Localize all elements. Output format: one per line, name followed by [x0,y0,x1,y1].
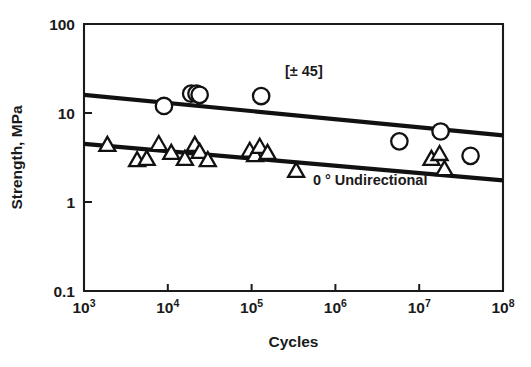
y-tick-label: 10 [58,105,75,122]
x-tick-label: 106 [324,297,347,316]
y-tick-label: 1 [66,194,75,211]
x-tick-exponent: 5 [257,297,263,309]
x-tick-exponent: 6 [341,297,347,309]
x-tick-exponent: 7 [425,297,431,309]
data-point-triangle [288,163,304,177]
data-point-circle [156,98,172,114]
y-axis-ticks [84,113,92,202]
data-point-triangle [151,136,167,150]
x-tick-exponent: 8 [509,297,515,309]
x-axis-tick-labels: 103104105106107108 [72,297,514,316]
data-point-circle [391,133,407,149]
fatigue-strength-scatter-chart: 103104105106107108 1001010.1 [± 45]0 ° U… [0,0,531,367]
x-axis-title: Cycles [269,333,319,350]
series-annotation: [± 45] [285,63,323,79]
data-point-circle [253,88,269,104]
figure-container: 103104105106107108 1001010.1 [± 45]0 ° U… [0,0,531,367]
x-tick-label: 108 [491,297,514,316]
y-axis-title: Strength, MPa [8,105,25,210]
x-tick-label: 105 [240,297,263,316]
x-tick-label: 103 [72,297,95,316]
data-point-circle [191,87,207,103]
data-point-circle [432,123,448,139]
y-tick-label: 100 [49,16,75,33]
x-tick-label: 107 [408,297,431,316]
y-tick-label: 0.1 [53,283,75,300]
data-point-circle [462,148,478,164]
x-tick-label: 104 [156,297,179,316]
x-tick-exponent: 3 [90,297,96,309]
y-axis-tick-labels: 1001010.1 [49,16,75,300]
series-annotation: 0 ° Undirectional [313,172,428,188]
x-tick-exponent: 4 [174,297,180,309]
